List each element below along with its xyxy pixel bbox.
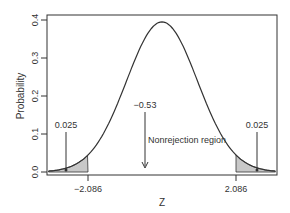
y-axis bbox=[41, 20, 47, 172]
test-statistic-label: −0.53 bbox=[134, 100, 157, 110]
y-tick-label: 0.2 bbox=[30, 90, 40, 103]
y-tick-label: 0.3 bbox=[30, 52, 40, 65]
nonrejection-region-label: Nonrejection region bbox=[148, 135, 226, 145]
y-axis-label: Probability bbox=[15, 73, 26, 120]
right-tail-point bbox=[256, 169, 259, 172]
plot-frame bbox=[47, 15, 277, 175]
right-tail-label: 0.025 bbox=[246, 120, 269, 130]
x-tick-label: 2.086 bbox=[225, 184, 248, 194]
left-tail-point bbox=[65, 169, 68, 172]
x-axis bbox=[88, 175, 236, 181]
y-tick-label: 0.4 bbox=[30, 14, 40, 27]
x-tick-label: −2.086 bbox=[74, 184, 102, 194]
left-tail-label: 0.025 bbox=[55, 120, 78, 130]
x-axis-label: Z bbox=[159, 197, 165, 208]
y-tick-label: 0.1 bbox=[30, 128, 40, 141]
density-curve bbox=[49, 22, 276, 171]
y-tick-label: 0.0 bbox=[30, 166, 40, 179]
left-rejection-region bbox=[49, 156, 89, 173]
chart-container: 0.0 0.1 0.2 0.3 0.4 Probability −2.086 2… bbox=[0, 0, 290, 213]
